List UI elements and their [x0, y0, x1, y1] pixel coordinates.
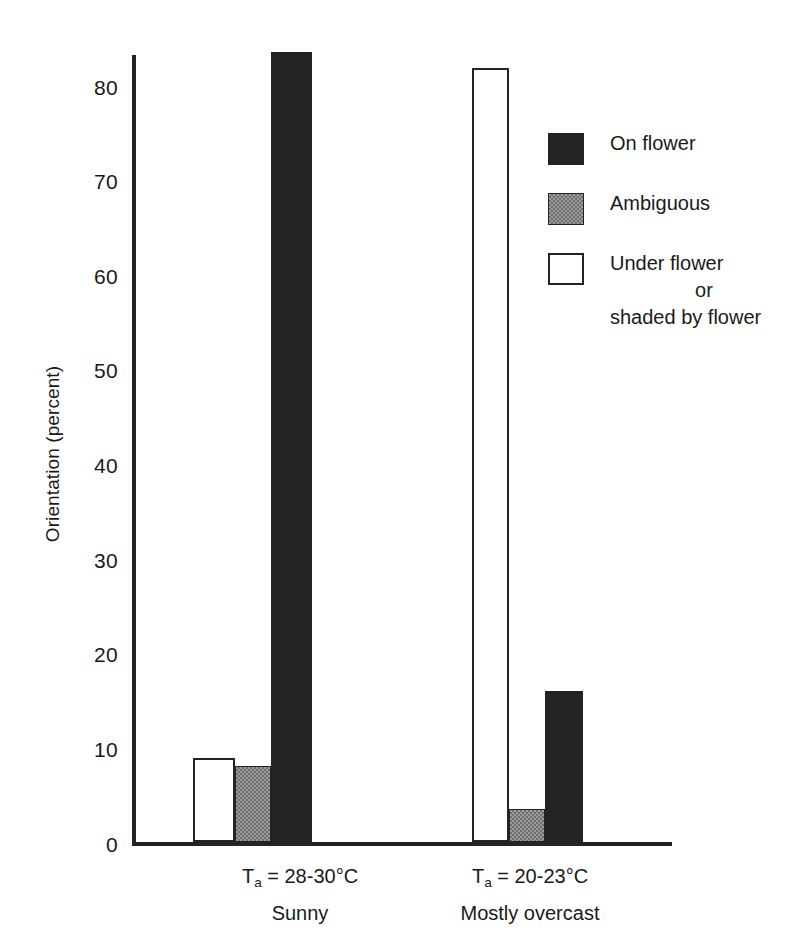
group-label-overcast-line1: Ta = 20-23°C [370, 861, 690, 898]
legend-label-on-flower-line1: On flower [610, 130, 798, 157]
ta-value: = 20-23°C [492, 865, 588, 887]
y-axis-tick-labels: 80 70 60 50 40 30 20 10 0 [0, 40, 132, 846]
y-tick-20: 20 [94, 643, 118, 667]
legend-label-under-flower: Under flower or shaded by flower [610, 250, 798, 331]
bar-sunny-under-flower [193, 758, 235, 842]
legend-label-under-flower-line1: Under flower [610, 250, 798, 277]
y-tick-80: 80 [94, 76, 118, 100]
y-tick-50: 50 [94, 359, 118, 383]
legend-label-under-flower-line2: or [610, 277, 798, 304]
group-label-overcast: Ta = 20-23°C Mostly overcast [370, 861, 690, 928]
legend-label-ambiguous-line1: Ambiguous [610, 190, 798, 217]
bar-overcast-ambiguous [509, 809, 545, 842]
ta-subscript: a [484, 875, 492, 890]
bar-sunny-ambiguous [235, 766, 271, 842]
y-tick-70: 70 [94, 170, 118, 194]
x-axis-line [132, 842, 672, 846]
y-tick-60: 60 [94, 265, 118, 289]
legend-swatch-on-flower-icon [548, 133, 584, 165]
group-label-overcast-line2: Mostly overcast [370, 898, 690, 928]
y-tick-10: 10 [94, 738, 118, 762]
legend: On flower Ambiguous Under flower or shad… [548, 130, 798, 357]
y-tick-0: 0 [106, 833, 118, 857]
legend-label-ambiguous: Ambiguous [610, 190, 798, 217]
ta-subscript: a [254, 875, 262, 890]
bar-overcast-under-flower [472, 68, 509, 842]
ta-symbol: T [472, 865, 484, 887]
chart-figure: Orientation (percent) 80 70 60 50 40 30 … [0, 0, 801, 945]
bar-overcast-on-flower [545, 691, 583, 842]
legend-label-on-flower: On flower [610, 130, 798, 157]
legend-swatch-ambiguous-icon [548, 193, 584, 225]
legend-label-under-flower-line3: shaded by flower [610, 304, 798, 331]
legend-item-under-flower: Under flower or shaded by flower [548, 250, 798, 331]
legend-item-ambiguous: Ambiguous [548, 190, 798, 224]
legend-swatch-under-flower-icon [548, 253, 584, 285]
y-tick-30: 30 [94, 549, 118, 573]
legend-item-on-flower: On flower [548, 130, 798, 164]
y-tick-40: 40 [94, 454, 118, 478]
ta-symbol: T [242, 865, 254, 887]
ta-value: = 28-30°C [262, 865, 358, 887]
y-axis-line [132, 55, 136, 846]
bar-sunny-on-flower [271, 52, 312, 842]
